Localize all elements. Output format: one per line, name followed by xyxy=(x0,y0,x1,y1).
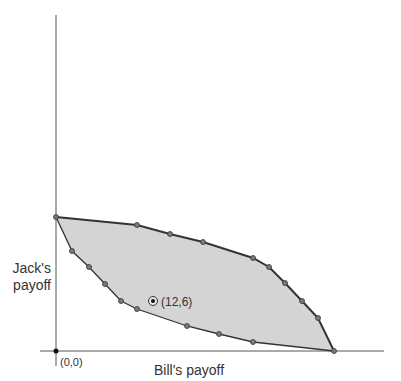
origin-label: (0,0) xyxy=(60,356,83,368)
payoff-region xyxy=(56,217,334,351)
y-axis-label-line1: Jack's xyxy=(13,260,51,276)
highlighted-point-label: (12,6) xyxy=(161,295,192,309)
payoff-diagram: (12,6) (0,0) Bill's payoff Jack's payoff xyxy=(0,0,401,381)
highlighted-point-dot xyxy=(151,299,155,303)
x-axis-label: Bill's payoff xyxy=(154,362,224,378)
origin-dot xyxy=(54,349,59,354)
y-axis-label-line2: payoff xyxy=(13,277,51,293)
